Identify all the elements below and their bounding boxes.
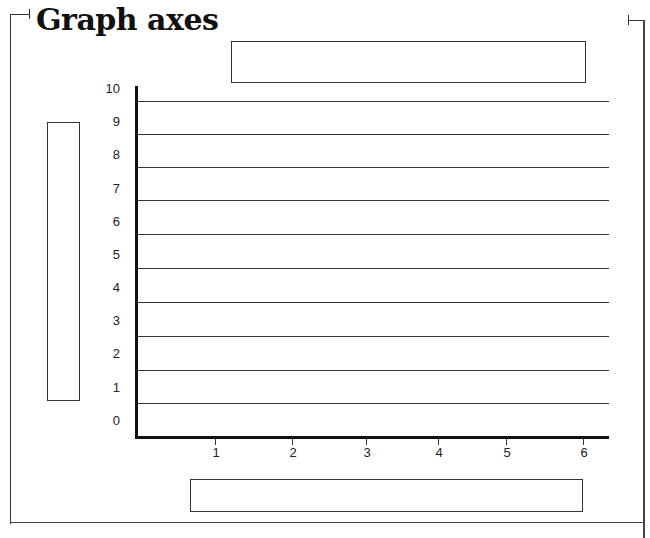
frame-edge-right	[643, 20, 645, 538]
x-tick-mark	[438, 438, 439, 445]
y-tick-label: 7	[96, 181, 120, 196]
y-tick-label: 4	[96, 280, 120, 295]
page-title: Graph axes	[36, 2, 218, 37]
x-tick-label: 1	[210, 445, 222, 460]
frame-corner-right	[628, 20, 644, 21]
y-tick-label: 3	[96, 313, 120, 328]
frame-tick-left	[29, 9, 30, 19]
gridline	[138, 370, 609, 371]
gridline	[138, 101, 609, 102]
x-tick-mark	[506, 438, 507, 445]
x-axis-line	[135, 436, 609, 439]
gridline	[138, 302, 609, 303]
frame-edge-bottom	[10, 522, 644, 523]
gridline	[138, 403, 609, 404]
y-tick-label: 1	[96, 380, 120, 395]
x-tick-mark	[583, 438, 584, 445]
y-tick-label: 8	[96, 147, 120, 162]
y-axis-label-box[interactable]	[47, 122, 80, 401]
x-tick-label: 2	[287, 445, 299, 460]
x-tick-mark	[215, 438, 216, 445]
x-tick-label: 4	[433, 445, 445, 460]
x-tick-label: 6	[578, 445, 590, 460]
chart-title-box[interactable]	[231, 41, 586, 83]
y-tick-label: 10	[96, 81, 120, 96]
frame-edge-left	[10, 14, 11, 524]
gridline	[138, 200, 609, 201]
y-tick-label: 9	[96, 114, 120, 129]
x-tick-label: 5	[501, 445, 513, 460]
frame-corner-left	[10, 14, 30, 15]
gridline	[138, 234, 609, 235]
y-tick-label: 0	[96, 413, 120, 428]
x-tick-label: 3	[361, 445, 373, 460]
y-tick-label: 2	[96, 346, 120, 361]
frame-tick-right	[628, 15, 629, 25]
gridline	[138, 167, 609, 168]
x-axis-label-box[interactable]	[190, 479, 583, 512]
x-tick-mark	[292, 438, 293, 445]
y-axis-line	[135, 86, 138, 438]
gridline	[138, 268, 609, 269]
x-tick-mark	[366, 438, 367, 445]
y-tick-label: 5	[96, 247, 120, 262]
gridline	[138, 336, 609, 337]
y-tick-label: 6	[96, 214, 120, 229]
gridline	[138, 134, 609, 135]
